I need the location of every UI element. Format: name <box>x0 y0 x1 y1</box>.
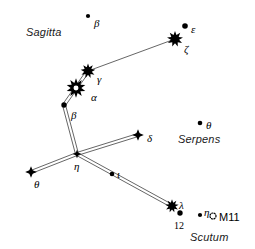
line-segment <box>88 39 175 71</box>
star-delta[interactable] <box>132 129 144 141</box>
star-core <box>76 153 79 156</box>
star-label-theta-aquilae: θ <box>34 179 39 190</box>
constellation-label-scutum: Scutum <box>190 232 229 243</box>
dso-label-m11: M11 <box>219 212 240 223</box>
star-core <box>136 133 140 137</box>
line-segment <box>77 136 138 155</box>
line-segment <box>78 153 173 205</box>
star-core <box>171 35 178 42</box>
star-dot <box>177 210 182 215</box>
star-dot <box>61 102 66 107</box>
dso-m11[interactable] <box>210 213 216 219</box>
star-lambda[interactable] <box>165 199 178 212</box>
line-segment <box>30 153 76 171</box>
star-theta-aquilae[interactable] <box>25 166 37 178</box>
open-cluster-icon <box>210 213 216 219</box>
star-dot <box>86 14 90 18</box>
constellation-label-sagitta: Sagitta <box>26 27 62 38</box>
star-core <box>29 170 33 174</box>
star-dot <box>198 121 203 126</box>
star-dot <box>110 172 115 177</box>
constellation-line-eta-delta <box>77 134 139 156</box>
constellation-line-gamma-zeta <box>88 39 175 71</box>
star-label-eta-scuti: η <box>204 207 209 218</box>
star-label-delta: δ <box>147 133 152 144</box>
deep-sky-layer <box>210 213 216 219</box>
star-epsilon[interactable] <box>182 23 188 29</box>
star-label-zeta: ζ <box>184 44 188 55</box>
star-twelve-aquilae[interactable] <box>177 210 182 215</box>
star-zeta[interactable] <box>167 31 183 47</box>
star-label-beta-sagitta: β <box>94 18 99 29</box>
line-segment <box>76 155 171 207</box>
star-label-epsilon: ε <box>191 24 195 35</box>
star-label-alpha: α <box>91 92 97 103</box>
star-dot <box>198 213 202 217</box>
star-label-twelve-aquilae: 12 <box>174 221 184 231</box>
star-dot <box>182 23 188 29</box>
star-label-eta: η <box>74 161 79 172</box>
star-label-theta-serpens: θ <box>206 120 211 131</box>
star-label-iota: ι <box>117 169 120 180</box>
stars-layer <box>25 14 202 217</box>
star-eta-scuti[interactable] <box>198 213 202 217</box>
constellation-label-serpens: Serpens <box>178 134 220 145</box>
star-core <box>85 68 92 75</box>
star-label-beta-aquilae: β <box>71 110 76 121</box>
star-theta-serpens[interactable] <box>198 121 203 126</box>
line-segment <box>77 134 138 153</box>
star-label-lambda: λ <box>179 200 184 211</box>
star-chart: βεζγαβδθηθιλ12ηM11SagittaSerpensScutum <box>0 0 255 249</box>
line-segment <box>32 155 78 173</box>
star-beta-aquilae[interactable] <box>61 102 66 107</box>
star-core <box>169 203 175 209</box>
constellation-line-eta-theta-aquilae <box>30 153 77 174</box>
star-iota[interactable] <box>110 172 115 177</box>
constellation-line-eta-lambda <box>76 153 172 208</box>
constellation-lines <box>30 39 175 207</box>
star-altair-core <box>74 86 79 91</box>
star-label-gamma: γ <box>97 74 101 85</box>
star-beta-sagitta[interactable] <box>86 14 90 18</box>
